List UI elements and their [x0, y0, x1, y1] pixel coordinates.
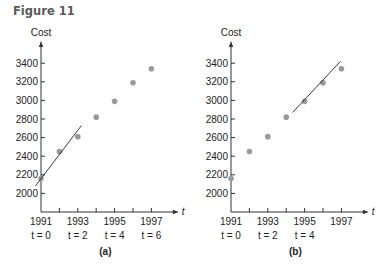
fit-line — [293, 61, 341, 112]
y-tick-label: 3200 — [16, 76, 39, 87]
y-tick-label: 2800 — [206, 114, 229, 125]
data-point — [283, 114, 289, 120]
y-tick-label: 2400 — [16, 151, 39, 162]
chart-panel-a: Costt20002200240026002800300032003400199… — [16, 27, 186, 257]
x-tick-label-t: t = 4 — [105, 230, 125, 241]
data-point — [75, 134, 81, 140]
y-tick-label: 3000 — [206, 95, 229, 106]
x-tick-label-t: t = 0 — [31, 230, 51, 241]
y-tick-label: 3400 — [16, 58, 39, 69]
x-tick-label-t: t = 0 — [221, 230, 241, 241]
x-axis-arrow-icon — [363, 210, 369, 214]
x-tick-label-t: t = 2 — [258, 230, 278, 241]
x-tick-label-year: 1993 — [67, 216, 90, 227]
y-axis-arrow-icon — [39, 41, 43, 47]
x-tick-label-year: 1997 — [140, 216, 163, 227]
x-tick-label-year: 1995 — [103, 216, 126, 227]
x-tick-label-t: t = 4 — [295, 230, 315, 241]
y-tick-label: 2600 — [16, 132, 39, 143]
y-tick-label: 2000 — [206, 188, 229, 199]
x-tick-label-t: t = 6 — [142, 230, 162, 241]
x-tick-label-year: 1995 — [293, 216, 316, 227]
panel-label: (a) — [99, 246, 111, 257]
panel-label: (b) — [289, 246, 302, 257]
y-tick-label: 2000 — [16, 188, 39, 199]
y-tick-label: 3200 — [206, 76, 229, 87]
data-point — [130, 80, 136, 86]
x-tick-label-year: 1993 — [257, 216, 280, 227]
figure-charts: Costt20002200240026002800300032003400199… — [0, 0, 385, 269]
x-tick-label-year: 1991 — [30, 216, 53, 227]
x-tick-label-year: 1997 — [330, 216, 353, 227]
chart-panel-b: Costt20002200240026002800300032003400199… — [206, 27, 376, 257]
data-point — [228, 176, 234, 182]
data-point — [247, 149, 253, 155]
y-axis-label: Cost — [221, 27, 242, 38]
data-point — [93, 114, 99, 120]
data-point — [339, 66, 345, 72]
y-tick-label: 2200 — [16, 169, 39, 180]
y-tick-label: 3400 — [206, 58, 229, 69]
y-tick-label: 3000 — [16, 95, 39, 106]
y-axis-label: Cost — [31, 27, 52, 38]
x-tick-label-year: 1991 — [220, 216, 243, 227]
data-point — [265, 134, 271, 140]
x-axis-label: t — [372, 206, 376, 217]
x-axis-label: t — [182, 206, 186, 217]
data-point — [112, 99, 118, 105]
y-tick-label: 2600 — [206, 132, 229, 143]
y-tick-label: 2800 — [16, 114, 39, 125]
y-axis-arrow-icon — [229, 41, 233, 47]
x-tick-label-t: t = 2 — [68, 230, 88, 241]
y-tick-label: 2400 — [206, 151, 229, 162]
y-tick-label: 2200 — [206, 169, 229, 180]
data-point — [149, 66, 155, 72]
x-axis-arrow-icon — [173, 210, 179, 214]
